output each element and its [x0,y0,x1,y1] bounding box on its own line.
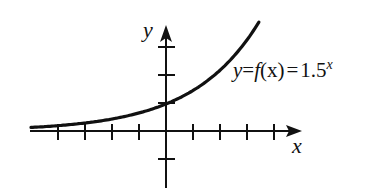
x-axis-label: x [291,133,302,158]
y-axis-label: y [141,17,153,42]
exponential-graph: y x y=f(x)=1.5x [0,0,384,196]
svg-text:y=f(x)=1.5x: y=f(x)=1.5x [231,57,334,82]
equation-label: y=f(x)=1.5x [231,57,334,82]
